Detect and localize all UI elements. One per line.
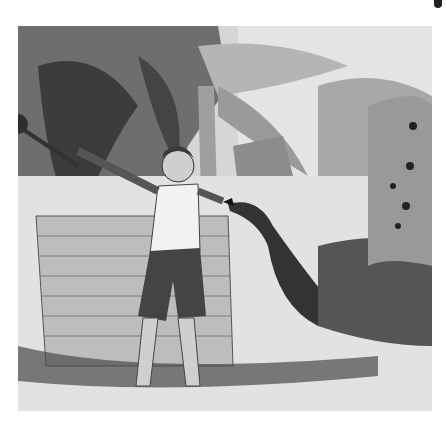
illustration xyxy=(18,26,432,411)
peacock-tail xyxy=(368,96,432,266)
illustration-frame xyxy=(18,26,432,411)
page-corner-mark xyxy=(434,0,442,8)
